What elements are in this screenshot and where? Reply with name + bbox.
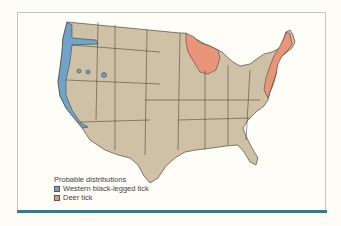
- blue-swatch-icon: [54, 186, 60, 192]
- legend-title: Probable distributions: [54, 175, 149, 184]
- frame-bottom-bar: [17, 210, 327, 213]
- legend-item-deer: Deer tick: [54, 193, 149, 202]
- legend-label: Deer tick: [63, 193, 93, 202]
- blue-dot: [102, 73, 107, 78]
- blue-dot: [86, 70, 90, 74]
- legend: Probable distributions Western black-leg…: [54, 175, 149, 202]
- legend-item-western: Western black-legged tick: [54, 184, 149, 193]
- salmon-swatch-icon: [54, 195, 60, 201]
- us-map: [0, 0, 341, 226]
- us-landmass: [58, 22, 295, 183]
- legend-label: Western black-legged tick: [63, 184, 149, 193]
- blue-dot: [77, 69, 81, 73]
